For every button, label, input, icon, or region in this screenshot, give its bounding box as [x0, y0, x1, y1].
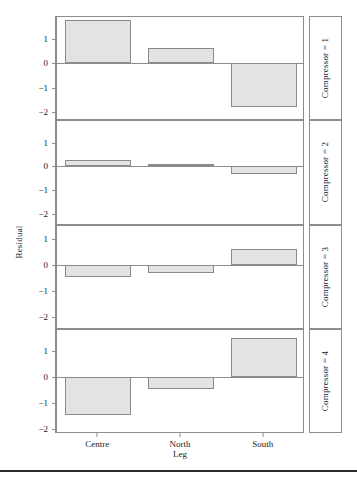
- x-axis-tick-label-north: North: [170, 439, 191, 449]
- bar-centre: [65, 377, 131, 416]
- y-axis-tick-label: 1: [44, 138, 49, 147]
- strip-label-panel: Compressor = 2: [309, 120, 342, 224]
- bar-north: [148, 265, 214, 273]
- bar-north: [148, 48, 214, 63]
- y-axis-tick-label: −2: [38, 209, 48, 218]
- y-axis-tick-label: −1: [38, 399, 48, 408]
- bar-north: [148, 164, 214, 167]
- bar-centre: [65, 265, 131, 277]
- bottom-rule: [0, 470, 357, 472]
- strip-label-text: Compressor = 1: [321, 38, 331, 98]
- facet-panel: [56, 329, 304, 433]
- y-axis-tick-label: 0: [44, 59, 49, 68]
- bar-north: [148, 377, 214, 389]
- x-axis-title: Leg: [56, 449, 304, 459]
- facet-panel: [56, 16, 304, 120]
- strip-label-column: Compressor = 1Compressor = 2Compressor =…: [309, 16, 342, 433]
- y-axis-tick-label: 1: [44, 34, 49, 43]
- panel-stack: [56, 16, 304, 433]
- bar-centre: [65, 160, 131, 167]
- y-axis-tick-label: 1: [44, 346, 49, 355]
- x-axis-tick: [97, 433, 98, 437]
- y-axis-tick-label: −1: [38, 186, 48, 195]
- facet-panel: [56, 120, 304, 224]
- bar-south: [231, 63, 297, 106]
- x-axis-tick: [180, 433, 181, 437]
- x-axis-tick-label-centre: Centre: [85, 439, 109, 449]
- y-axis-tick-label: 1: [44, 234, 49, 243]
- residual-by-leg-faceted-bar-chart: Residual 10−1−210−1−210−1−210−1−2 Compre…: [0, 0, 357, 483]
- y-axis-tick-label: −2: [38, 313, 48, 322]
- strip-label-text: Compressor = 4: [321, 351, 331, 411]
- facet-panel: [56, 225, 304, 329]
- y-axis-tick-label: −2: [38, 425, 48, 434]
- y-axis-tick-label: 0: [44, 162, 49, 171]
- y-axis-tick-label: 0: [44, 260, 49, 269]
- bar-south: [231, 249, 297, 265]
- strip-label-text: Compressor = 2: [321, 142, 331, 202]
- strip-label-text: Compressor = 3: [321, 246, 331, 306]
- y-axis-tick-label: 0: [44, 372, 49, 381]
- y-axis-tick-column: 10−1−210−1−210−1−210−1−2: [0, 16, 56, 433]
- strip-label-panel: Compressor = 4: [309, 329, 342, 433]
- y-axis-tick-label: −2: [38, 107, 48, 116]
- y-axis-tick-label: −1: [38, 83, 48, 92]
- strip-label-panel: Compressor = 3: [309, 225, 342, 329]
- x-axis-tick: [262, 433, 263, 437]
- strip-label-panel: Compressor = 1: [309, 16, 342, 120]
- x-axis-tick-label-south: South: [252, 439, 273, 449]
- bar-south: [231, 338, 297, 377]
- bar-centre: [65, 20, 131, 63]
- bar-south: [231, 166, 297, 174]
- y-axis-tick-label: −1: [38, 287, 48, 296]
